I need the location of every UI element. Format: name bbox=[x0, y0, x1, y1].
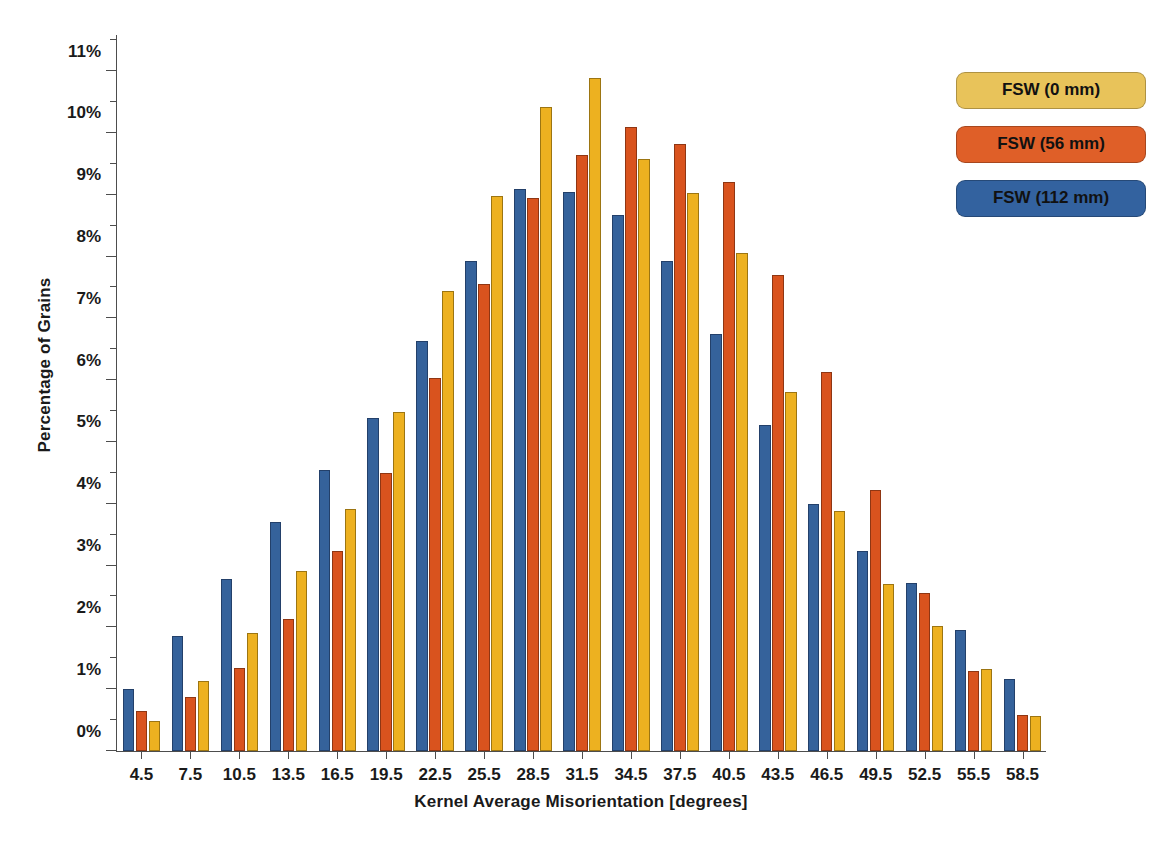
y-tick-label-4: 4% bbox=[76, 474, 101, 494]
bar-fsw-56-mm--7.5 bbox=[185, 697, 197, 751]
bar-fsw-56-mm--10.5 bbox=[234, 668, 246, 751]
bar-fsw-112-mm--31.5 bbox=[563, 192, 575, 751]
bar-fsw-56-mm--25.5 bbox=[478, 284, 490, 751]
bar-fsw-0-mm--13.5 bbox=[296, 571, 308, 751]
y-minor-tick bbox=[110, 595, 117, 596]
bar-fsw-112-mm--4.5 bbox=[123, 689, 135, 751]
x-tick-13 bbox=[778, 751, 779, 759]
bar-fsw-0-mm--10.5 bbox=[247, 633, 259, 751]
bar-fsw-0-mm--49.5 bbox=[883, 584, 895, 752]
x-tick-0 bbox=[141, 751, 142, 759]
y-tick-5 bbox=[106, 441, 117, 442]
bar-fsw-56-mm--55.5 bbox=[968, 671, 980, 751]
y-tick-8 bbox=[106, 256, 117, 257]
bar-fsw-56-mm--19.5 bbox=[380, 473, 392, 751]
bar-fsw-112-mm--7.5 bbox=[172, 636, 184, 751]
x-tick-18 bbox=[1023, 751, 1024, 759]
x-tick-label-3: 13.5 bbox=[272, 765, 305, 785]
bar-fsw-56-mm--34.5 bbox=[625, 127, 637, 751]
bar-fsw-56-mm--49.5 bbox=[870, 490, 882, 751]
y-tick-3 bbox=[106, 565, 117, 566]
y-tick-label-9: 9% bbox=[76, 165, 101, 185]
x-tick-10 bbox=[631, 751, 632, 759]
y-tick-label-3: 3% bbox=[76, 536, 101, 556]
x-tick-label-7: 25.5 bbox=[468, 765, 501, 785]
bar-fsw-112-mm--16.5 bbox=[319, 470, 331, 751]
y-minor-tick bbox=[110, 657, 117, 658]
bar-fsw-112-mm--49.5 bbox=[857, 551, 869, 751]
bar-fsw-0-mm--37.5 bbox=[687, 193, 699, 751]
y-tick-7 bbox=[106, 317, 117, 318]
x-tick-2 bbox=[239, 751, 240, 759]
bar-fsw-56-mm--46.5 bbox=[821, 372, 833, 751]
bar-fsw-112-mm--40.5 bbox=[710, 334, 722, 751]
y-tick-4 bbox=[106, 503, 117, 504]
y-tick-0 bbox=[106, 750, 117, 751]
y-tick-9 bbox=[106, 194, 117, 195]
y-tick-label-0: 0% bbox=[76, 722, 101, 742]
bar-fsw-0-mm--19.5 bbox=[393, 412, 405, 751]
bar-fsw-112-mm--34.5 bbox=[612, 215, 624, 751]
x-tick-label-17: 55.5 bbox=[957, 765, 990, 785]
y-tick-2 bbox=[106, 626, 117, 627]
bar-fsw-112-mm--52.5 bbox=[906, 583, 918, 751]
bar-fsw-112-mm--43.5 bbox=[759, 425, 771, 751]
bar-fsw-56-mm--31.5 bbox=[576, 155, 588, 751]
bar-fsw-56-mm--58.5 bbox=[1017, 715, 1029, 751]
bar-fsw-56-mm--52.5 bbox=[919, 593, 931, 751]
x-tick-label-11: 37.5 bbox=[663, 765, 696, 785]
y-tick-11 bbox=[106, 70, 117, 71]
x-tick-label-1: 7.5 bbox=[179, 765, 203, 785]
bar-fsw-0-mm--28.5 bbox=[540, 107, 552, 751]
bar-fsw-0-mm--55.5 bbox=[981, 669, 993, 751]
x-tick-8 bbox=[533, 751, 534, 759]
x-tick-label-2: 10.5 bbox=[223, 765, 256, 785]
x-tick-11 bbox=[680, 751, 681, 759]
y-minor-tick bbox=[110, 101, 117, 102]
x-tick-7 bbox=[484, 751, 485, 759]
x-tick-6 bbox=[435, 751, 436, 759]
bar-fsw-0-mm--4.5 bbox=[149, 721, 161, 751]
bar-fsw-0-mm--22.5 bbox=[442, 291, 454, 751]
x-tick-3 bbox=[288, 751, 289, 759]
bar-fsw-0-mm--7.5 bbox=[198, 681, 210, 751]
x-tick-label-9: 31.5 bbox=[565, 765, 598, 785]
x-tick-label-10: 34.5 bbox=[614, 765, 647, 785]
x-tick-15 bbox=[876, 751, 877, 759]
y-tick-10 bbox=[106, 132, 117, 133]
x-tick-16 bbox=[925, 751, 926, 759]
bar-fsw-112-mm--13.5 bbox=[270, 522, 282, 751]
bar-fsw-0-mm--31.5 bbox=[589, 78, 601, 751]
bar-fsw-56-mm--16.5 bbox=[332, 551, 344, 751]
x-tick-9 bbox=[582, 751, 583, 759]
y-tick-label-2: 2% bbox=[76, 598, 101, 618]
x-tick-17 bbox=[974, 751, 975, 759]
plot-area: 0%1%2%3%4%5%6%7%8%9%10%11% 4.57.510.513.… bbox=[116, 35, 1046, 752]
y-tick-1 bbox=[106, 688, 117, 689]
bar-fsw-112-mm--25.5 bbox=[465, 261, 477, 751]
x-tick-label-14: 46.5 bbox=[810, 765, 843, 785]
bar-fsw-56-mm--37.5 bbox=[674, 144, 686, 751]
x-tick-label-8: 28.5 bbox=[517, 765, 550, 785]
bar-fsw-0-mm--25.5 bbox=[491, 196, 503, 751]
bar-fsw-56-mm--40.5 bbox=[723, 182, 735, 751]
bar-fsw-0-mm--58.5 bbox=[1030, 716, 1042, 751]
legend-item-0[interactable]: FSW (0 mm) bbox=[956, 72, 1146, 109]
x-tick-label-4: 16.5 bbox=[321, 765, 354, 785]
bar-fsw-56-mm--13.5 bbox=[283, 619, 295, 751]
bar-fsw-112-mm--22.5 bbox=[416, 341, 428, 751]
y-tick-6 bbox=[106, 379, 117, 380]
bar-fsw-112-mm--37.5 bbox=[661, 261, 673, 751]
bar-fsw-112-mm--19.5 bbox=[367, 418, 379, 751]
bar-fsw-0-mm--43.5 bbox=[785, 392, 797, 751]
y-minor-tick bbox=[110, 225, 117, 226]
bar-fsw-0-mm--16.5 bbox=[345, 509, 357, 751]
y-tick-label-11: 11% bbox=[68, 42, 101, 62]
y-minor-tick bbox=[110, 534, 117, 535]
legend-item-2[interactable]: FSW (112 mm) bbox=[956, 180, 1146, 217]
legend-item-1[interactable]: FSW (56 mm) bbox=[956, 126, 1146, 163]
x-tick-label-0: 4.5 bbox=[130, 765, 154, 785]
x-tick-label-5: 19.5 bbox=[370, 765, 403, 785]
y-tick-label-1: 1% bbox=[76, 660, 101, 680]
x-tick-label-15: 49.5 bbox=[859, 765, 892, 785]
